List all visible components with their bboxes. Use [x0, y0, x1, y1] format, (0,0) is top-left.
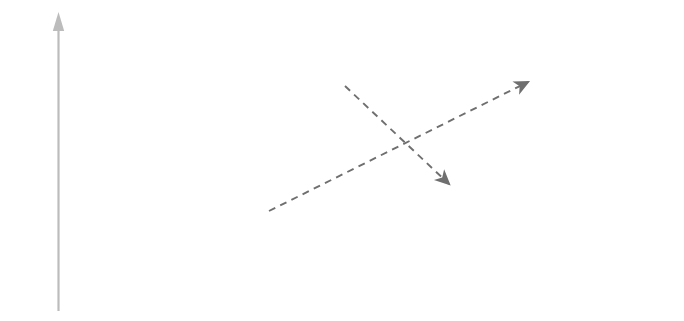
spin-up-arrow-icon: ↑ — [535, 76, 553, 97]
orbital-boxes-right-4s: ↑↓ — [534, 67, 572, 105]
orbital-energy-diagram: Potential energy 3d 4s ↑↓ 3d orbitals ar… — [0, 0, 684, 321]
orbital-cell — [497, 187, 535, 223]
orbital-boxes-right-3d: ↑ — [458, 186, 648, 224]
orbital-label-right-4s: 4s — [534, 43, 572, 61]
orbital-cell — [224, 64, 262, 100]
electron-pair-left-4s: ↑↓ — [225, 199, 260, 220]
axis-label-potential-energy: Potential energy — [40, 0, 57, 258]
orbital-cell — [262, 64, 300, 100]
caption-left-line2: empty (Ca) — [143, 278, 343, 298]
caption-right: 3d orbitals occupied (Sc) — [433, 258, 673, 278]
caption-left: 3d orbitals are empty (Ca) — [143, 258, 343, 298]
orbital-cell — [609, 187, 647, 223]
orbital-cell — [149, 64, 187, 100]
orbital-cell — [572, 187, 610, 223]
spin-up-arrow-icon: ↑ — [469, 195, 487, 216]
arrow-left3d-to-right3d — [345, 86, 449, 184]
spin-down-arrow-icon: ↓ — [243, 199, 261, 220]
electron-pair-right-4s: ↑↓ — [535, 76, 570, 97]
orbital-label-left-3d: 3d — [148, 38, 338, 56]
orbital-boxes-left-3d — [148, 63, 338, 101]
orbital-label-right-3d: 3d — [458, 161, 648, 179]
orbital-boxes-left-4s: ↑↓ — [224, 190, 262, 228]
orbital-cell — [187, 64, 225, 100]
caption-right-line1: 3d orbitals occupied (Sc) — [433, 258, 673, 278]
orbital-cell — [299, 64, 337, 100]
spin-down-arrow-icon: ↓ — [553, 76, 571, 97]
orbital-cell — [534, 187, 572, 223]
orbital-cell: ↑ — [459, 187, 497, 223]
caption-left-line1: 3d orbitals are — [143, 258, 343, 278]
orbital-cell: ↑↓ — [225, 191, 261, 227]
orbital-label-left-4s: 4s — [224, 166, 262, 184]
orbital-cell: ↑↓ — [535, 68, 571, 104]
spin-up-arrow-icon: ↑ — [225, 199, 243, 220]
electron-single-right-3d: ↑ — [469, 195, 487, 216]
